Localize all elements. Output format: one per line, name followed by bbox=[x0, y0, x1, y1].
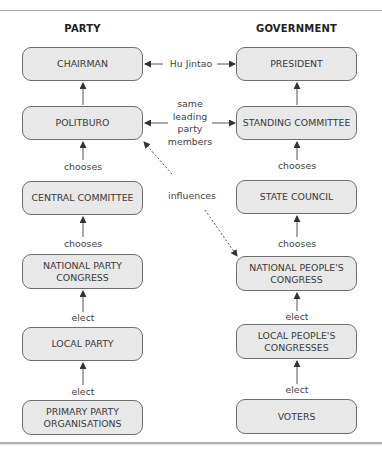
box-primary-party-organisations: PRIMARY PARTY ORGANISATIONS bbox=[22, 400, 143, 435]
box-voters: VOTERS bbox=[236, 399, 357, 434]
box-national-peoples-congress: NATIONAL PEOPLE'S CONGRESS bbox=[236, 256, 357, 291]
box-local-party: LOCAL PARTY bbox=[22, 327, 143, 361]
cross-label-same-leading-party-members: same leading party members bbox=[160, 98, 220, 148]
gov-link-label-chooses-2: chooses bbox=[257, 238, 337, 250]
cross-label-hu-jintao: Hu Jintao bbox=[158, 58, 224, 70]
gov-link-label-elect-1: elect bbox=[257, 311, 337, 323]
party-link-label-elect-1: elect bbox=[43, 312, 123, 324]
party-link-label-chooses-1: chooses bbox=[43, 161, 123, 173]
cross-label-influences: influences bbox=[162, 190, 222, 202]
box-state-council: STATE COUNCIL bbox=[236, 180, 357, 214]
box-national-party-congress: NATIONAL PARTY CONGRESS bbox=[22, 254, 143, 289]
box-local-peoples-congresses: LOCAL PEOPLE'S CONGRESSES bbox=[236, 324, 357, 359]
frame-top-rule bbox=[0, 10, 382, 11]
box-chairman: CHAIRMAN bbox=[22, 47, 143, 81]
box-politburo: POLITBURO bbox=[22, 106, 143, 140]
box-standing-committee: STANDING COMMITTEE bbox=[236, 106, 357, 140]
box-president: PRESIDENT bbox=[236, 47, 357, 81]
box-central-committee: CENTRAL COMMITTEE bbox=[22, 181, 143, 215]
government-column-title: GOVERNMENT bbox=[236, 23, 357, 34]
party-link-label-chooses-2: chooses bbox=[43, 238, 123, 250]
frame-bottom-rule bbox=[0, 442, 382, 444]
party-column-title: PARTY bbox=[22, 23, 143, 34]
party-link-label-elect-2: elect bbox=[43, 386, 123, 398]
gov-link-label-chooses-1: chooses bbox=[257, 160, 337, 172]
gov-link-label-elect-2: elect bbox=[257, 384, 337, 396]
